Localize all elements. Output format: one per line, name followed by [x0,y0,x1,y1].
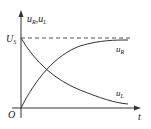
us-label: US [6,33,16,45]
u-r-label: uR [116,44,125,55]
x-axis-label: t [138,111,141,122]
y-axis-label: uR,uL [27,13,47,25]
curve-u-r [21,40,128,108]
y-axis-arrow-icon [19,10,24,17]
u-l-label: uL [116,88,125,99]
rl-voltage-diagram: uR,uL US uR uL O t [0,0,151,129]
origin-label: O [8,109,15,120]
x-axis-arrow-icon [134,106,141,111]
